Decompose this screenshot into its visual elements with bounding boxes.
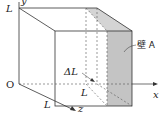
- slab-bottom-dashed: [86, 84, 107, 106]
- label-side-z: L: [43, 99, 51, 110]
- label-origin: O: [6, 79, 14, 90]
- z-axis-arrow-icon: [70, 106, 76, 111]
- label-y-axis: y: [20, 0, 27, 6]
- cube-diagram: L y O L z x ΔL L 壁 A: [0, 0, 166, 118]
- slab-shade-top: [86, 8, 132, 31]
- label-z-axis: z: [77, 103, 84, 114]
- label-x-axis: x: [153, 89, 159, 100]
- top-left-edge: [19, 8, 55, 31]
- label-delta-l: ΔL: [63, 66, 78, 77]
- label-wall-a: 壁 A: [137, 39, 156, 50]
- delta-l-arrow-icon: [90, 78, 95, 82]
- slab-shade-front: [107, 31, 132, 106]
- label-side-y: L: [5, 3, 13, 14]
- x-axis-arrow-icon: [153, 82, 158, 86]
- label-slab-length: L: [80, 87, 88, 98]
